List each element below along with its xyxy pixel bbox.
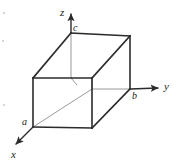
x-axis-line (16, 127, 33, 144)
figure-canvas: z y x c b a (0, 0, 180, 165)
scan-speck (2, 40, 4, 42)
y-axis-line (130, 88, 158, 89)
cube-edges-group (33, 33, 130, 128)
cube-axes-diagram (0, 0, 180, 165)
cube-edge-top-left (33, 33, 71, 78)
axis-label-y: y (164, 81, 169, 92)
vertex-label-c: c (73, 23, 77, 33)
vertex-label-b: b (132, 91, 137, 101)
scan-speck (3, 104, 5, 106)
cube-edge-bottom-front (33, 127, 92, 128)
hidden-edge-body-diagonal (33, 89, 92, 127)
hidden-edges-group (33, 34, 130, 127)
cube-edge-top-right (92, 36, 130, 78)
hidden-edge-z-lower-inside (71, 78, 77, 85)
cube-edge-bottom-right (92, 89, 130, 128)
vertex-label-a: a (22, 117, 27, 127)
axis-label-z: z (60, 7, 64, 18)
cube-edge-top-back (71, 33, 130, 36)
axis-label-x: x (11, 149, 16, 160)
scan-speck (3, 12, 5, 14)
